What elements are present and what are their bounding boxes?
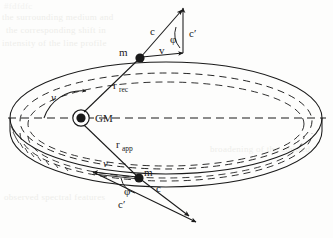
phi-label-approaching: φ (124, 185, 130, 197)
bleed-line: the surrounding medium and (2, 12, 114, 22)
bleed-line: intensity of the line profile (2, 38, 107, 48)
photon-label-receding: c (150, 25, 155, 37)
orbital-ring-diagram: #fdfdfc the surrounding medium and the c… (0, 0, 333, 238)
figure-canvas: #fdfdfc the surrounding medium and the c… (0, 0, 333, 238)
phi-label-receding: φ (170, 33, 176, 45)
outer-rim-bottom-arc (10, 131, 322, 187)
bleed-line: #fdfdfc (4, 1, 33, 11)
velocity-label-approaching: v (103, 157, 108, 169)
radius-label-approaching-sub: app (122, 144, 133, 153)
photon-label-approaching: c (156, 182, 161, 194)
central-mass-label: GM (95, 112, 113, 124)
mass-label-receding: m (119, 46, 128, 58)
true-anomaly-label: ν (51, 91, 56, 103)
central-mass-core-dot (76, 113, 85, 122)
velocity-label-receding: v (159, 44, 165, 56)
photon-prime-label-approaching: c′ (118, 198, 125, 210)
central-mass (73, 110, 89, 126)
radius-label-receding-base: r (113, 79, 117, 91)
photon-vector-approaching (139, 178, 189, 216)
inner-rim-top-ellipse (20, 73, 312, 169)
photon-prime-label-receding: c′ (189, 27, 196, 39)
radius-label-approaching: r app (116, 138, 133, 153)
radius-label-approaching-base: r (116, 138, 120, 150)
radius-label-receding-sub: rec (119, 85, 129, 94)
bleed-line: observed spectral features (4, 192, 105, 202)
receding-particle-group: m c v φ c′ r rec (84, 8, 196, 112)
page-bleed-through: #fdfdfc the surrounding medium and the c… (2, 1, 310, 202)
ring-body (10, 62, 322, 187)
photon-prime-vector-approaching (93, 172, 196, 222)
bleed-line: the corresponding shift in (6, 25, 106, 35)
mass-label-approaching: m (144, 166, 153, 178)
radius-label-receding: r rec (113, 79, 129, 94)
radius-vector-receding (84, 58, 140, 112)
